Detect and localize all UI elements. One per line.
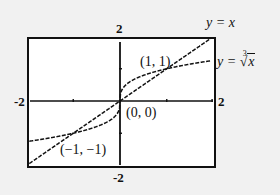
cube-root-symbol: 3√x [240,55,255,69]
legend-label-identity: y = x [206,16,235,30]
annotation-origin: (0, 0) [126,106,156,120]
y-min-tick-label: -2 [113,171,124,184]
annotation-point-1-1: (1, 1) [140,55,170,69]
y-max-tick-label: 2 [116,22,123,35]
legend-label-identity-var: x [229,15,235,30]
legend-label-cube-root-prefix: y = [217,54,240,69]
plot-frame [28,38,215,167]
x-min-tick-label: -2 [14,95,25,108]
cube-root-index: 3 [243,50,247,58]
chart-canvas [0,0,280,195]
legend-label-cube-root: y = 3√x [217,55,255,69]
legend-label-identity-prefix: y = [206,15,229,30]
annotation-point-neg1-neg1: (−1, −1) [60,143,106,157]
cube-root-arg: x [247,53,254,69]
x-max-tick-label: 2 [218,95,225,108]
